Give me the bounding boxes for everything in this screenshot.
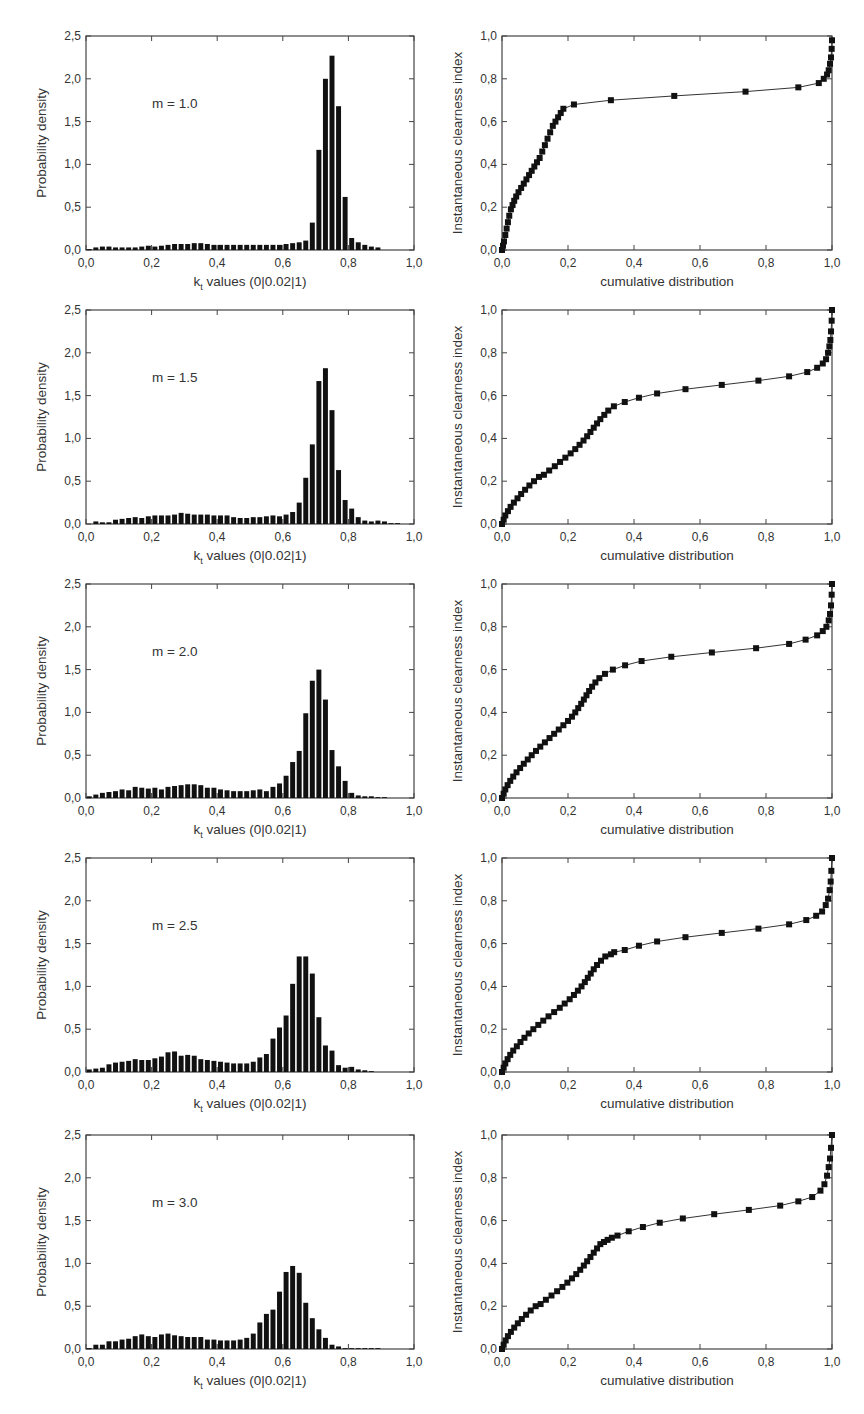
histogram-bar	[166, 1334, 171, 1349]
x-tick-label: 0,6	[692, 804, 709, 818]
histogram-bar	[343, 1068, 348, 1072]
histogram-bar	[198, 1337, 203, 1349]
x-tick-label: 0,4	[209, 804, 226, 818]
histogram-bar	[93, 795, 98, 798]
histogram-bar	[231, 791, 236, 798]
data-marker	[821, 1181, 827, 1187]
data-marker	[829, 318, 835, 324]
histogram-bar	[270, 787, 275, 798]
data-marker	[753, 645, 759, 651]
histogram-bar	[270, 1310, 275, 1349]
data-marker	[719, 930, 725, 936]
data-marker	[602, 671, 608, 677]
histogram-bar	[192, 243, 197, 250]
data-marker	[829, 46, 835, 52]
x-tick-label: 0,6	[692, 256, 709, 270]
histogram-bar	[120, 519, 125, 524]
x-tick-label: 0,4	[209, 256, 226, 270]
data-marker	[826, 1164, 832, 1170]
data-marker	[608, 97, 614, 103]
y-tick-label: 0,0	[64, 517, 81, 531]
histogram-bar	[198, 1059, 203, 1072]
histogram-bar	[100, 522, 105, 524]
y-tick-label: 2,5	[64, 303, 81, 317]
histogram-bar	[264, 1314, 269, 1349]
histogram-bar	[310, 974, 315, 1072]
histogram-bar	[375, 247, 380, 250]
data-marker	[680, 1215, 686, 1221]
histogram-panel: 0,00,20,40,60,81,00,00,51,01,52,02,5Prob…	[34, 303, 423, 566]
histogram-bar	[152, 788, 157, 798]
histogram-bar	[323, 368, 328, 524]
histogram-bar	[323, 1045, 328, 1072]
histogram-bar	[166, 1052, 171, 1072]
histogram-bar	[113, 1341, 118, 1349]
histogram-bar	[310, 223, 315, 250]
data-marker	[786, 921, 792, 927]
y-tick-label: 0,4	[480, 979, 497, 993]
histogram-bar	[323, 700, 328, 798]
data-marker	[640, 1224, 646, 1230]
histogram-bar	[192, 515, 197, 524]
data-marker	[827, 61, 833, 67]
y-tick-label: 0,6	[480, 663, 497, 677]
y-tick-label: 1,5	[64, 937, 81, 951]
data-marker	[826, 617, 832, 623]
histogram-bar	[126, 1339, 131, 1349]
histogram-bar	[389, 523, 394, 524]
x-tick-label: 0,2	[560, 256, 577, 270]
data-marker	[654, 390, 660, 396]
x-tick-label: 0,4	[209, 1078, 226, 1092]
cumulative-panel: 0,00,20,40,60,81,00,00,20,40,60,81,0Inst…	[450, 577, 841, 837]
histogram-bar	[133, 517, 138, 524]
data-marker	[829, 37, 835, 43]
data-marker	[755, 378, 761, 384]
data-marker	[814, 365, 820, 371]
histogram-bar	[264, 516, 269, 524]
histogram-bar	[146, 789, 151, 798]
y-tick-label: 1,0	[480, 577, 497, 591]
histogram-bar	[185, 244, 190, 250]
data-marker	[506, 213, 512, 219]
histogram-bar	[126, 790, 131, 798]
histogram-bar	[375, 1348, 380, 1349]
histogram-bar	[113, 791, 118, 798]
histogram-bar	[152, 1337, 157, 1349]
x-tick-label: 1,0	[406, 1355, 423, 1369]
y-axis-label: Probability density	[34, 88, 49, 198]
histogram-bar	[106, 792, 111, 798]
histogram-bar	[349, 793, 354, 798]
data-marker	[543, 1297, 549, 1303]
x-tick-label: 1,0	[824, 530, 841, 544]
y-tick-label: 2,0	[64, 894, 81, 908]
x-tick-label: 0,8	[340, 804, 357, 818]
parameter-annotation: m = 1.0	[152, 96, 197, 111]
histogram-bar	[139, 1060, 144, 1072]
histogram-bar	[159, 246, 164, 250]
plot-frame	[502, 1135, 832, 1349]
histogram-bar	[297, 242, 302, 250]
x-tick-label: 0,6	[274, 1355, 291, 1369]
x-tick-label: 0,4	[626, 256, 643, 270]
histogram-bar	[172, 515, 177, 524]
histogram-bar	[251, 245, 256, 250]
parameter-annotation: m = 2.5	[152, 918, 197, 933]
histogram-bar	[257, 517, 262, 524]
data-marker	[827, 611, 833, 617]
histogram-bar	[277, 1292, 282, 1349]
data-marker	[755, 926, 761, 932]
x-tick-label: 0,4	[209, 1355, 226, 1369]
cumulative-panel: 0,00,20,40,60,81,00,00,20,40,60,81,0Inst…	[450, 851, 841, 1111]
data-marker	[828, 1145, 834, 1151]
x-tick-label: 0,6	[274, 1078, 291, 1092]
histogram-bar	[349, 238, 354, 250]
histogram-bar	[356, 517, 361, 524]
histogram-bar	[238, 1340, 243, 1349]
histogram-bar	[264, 791, 269, 798]
y-tick-label: 0,8	[480, 346, 497, 360]
histogram-bar	[113, 520, 118, 524]
histogram-bar	[251, 517, 256, 524]
histogram-bar	[277, 245, 282, 250]
histogram-bar	[336, 1346, 341, 1349]
data-marker	[826, 67, 832, 73]
